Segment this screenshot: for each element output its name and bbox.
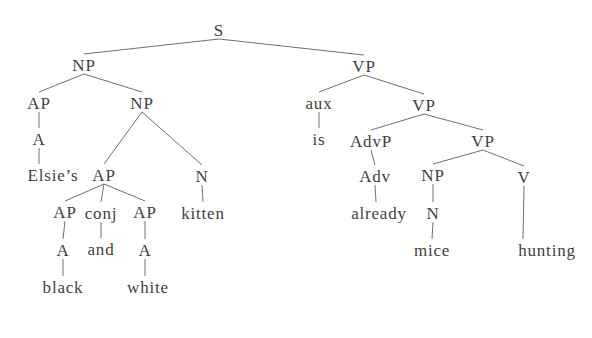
tree-node-label-is: is	[313, 130, 326, 149]
tree-edge-AP2-AP3	[65, 184, 104, 201]
tree-node-label-Adv: Adv	[359, 167, 391, 186]
tree-edge-VP3-NP3	[433, 150, 483, 164]
tree-node-label-hunting: hunting	[518, 241, 576, 260]
tree-edge-NP1-AP1	[39, 74, 84, 92]
tree-edge-VP1-VP2	[364, 75, 424, 94]
tree-node-label-AP3: AP	[53, 203, 76, 222]
tree-edge-AP2-AP4	[104, 184, 145, 201]
tree-edge-VP1-aux	[319, 75, 364, 92]
tree-node-label-mice: mice	[414, 241, 450, 260]
syntax-tree-diagram: SNPVPAPNPauxVPAisAdvPVPElsie’sAPNAdvNPVA…	[0, 0, 592, 338]
tree-node-label-AP4: AP	[133, 203, 156, 222]
tree-edge-VP2-VP3	[424, 114, 483, 130]
tree-node-label-A3: A	[138, 241, 151, 260]
figure-canvas: SNPVPAPNPauxVPAisAdvPVPElsie’sAPNAdvNPVA…	[0, 0, 592, 338]
tree-node-label-AP2: AP	[92, 166, 115, 185]
tree-node-label-N1: N	[195, 167, 208, 186]
tree-edge-NP2-AP2	[104, 112, 142, 164]
tree-edge-S-NP1	[84, 39, 219, 54]
tree-edge-AdvP-Adv	[371, 150, 375, 165]
tree-edge-NP1-NP2	[84, 74, 142, 92]
tree-edge-S-VP1	[219, 39, 364, 55]
tree-node-label-N2: N	[426, 204, 439, 223]
tree-edge-VP3-V	[483, 150, 524, 166]
tree-edge-NP2-N1	[142, 112, 202, 165]
tree-edge-AP3-A2	[63, 221, 65, 239]
tree-node-label-V: V	[517, 168, 530, 187]
tree-node-label-AP1: AP	[27, 94, 50, 113]
tree-node-label-S: S	[214, 21, 224, 40]
tree-node-label-NP3: NP	[421, 166, 444, 185]
tree-node-label-VP1: VP	[352, 57, 375, 76]
tree-edge-N2-mice	[432, 222, 433, 239]
tree-node-label-VP3: VP	[471, 132, 494, 151]
tree-edge-V-hunting	[523, 186, 524, 239]
tree-node-label-aux: aux	[306, 94, 333, 113]
tree-node-label-NP2: NP	[130, 94, 153, 113]
tree-edge-Adv-already	[375, 185, 376, 202]
tree-edge-VP2-AdvP	[371, 114, 424, 130]
tree-node-label-Elsies: Elsie’s	[28, 166, 79, 185]
tree-edge-N1-kitten	[202, 185, 203, 202]
tree-node-label-NP1: NP	[72, 56, 95, 75]
tree-node-label-black: black	[43, 278, 84, 297]
tree-node-label-A1: A	[32, 130, 45, 149]
tree-edge-AP2-conj	[101, 184, 104, 202]
tree-node-label-A2: A	[56, 241, 69, 260]
tree-node-label-and: and	[88, 240, 115, 259]
tree-node-label-kitten: kitten	[181, 204, 225, 223]
tree-node-label-AdvP: AdvP	[350, 132, 392, 151]
tree-node-label-conj: conj	[85, 204, 117, 223]
tree-node-label-already: already	[351, 204, 407, 223]
tree-node-label-white: white	[127, 278, 169, 297]
tree-node-label-VP2: VP	[412, 96, 435, 115]
